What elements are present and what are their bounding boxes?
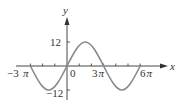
y-tick-label-12: 12 (50, 36, 61, 48)
svg-text:π: π (99, 67, 105, 79)
x-axis-label: x (169, 60, 175, 72)
svg-text:3: 3 (92, 67, 98, 79)
svg-text:6: 6 (140, 67, 146, 79)
x-tick-label-0: 0 (70, 67, 76, 79)
y-tick-label-neg12: −12 (46, 87, 63, 99)
y-axis-arrow-icon (65, 17, 70, 25)
y-axis-label: y (62, 4, 68, 16)
x-tick-label-neg3pi: −3 π (7, 67, 29, 79)
sine-graph: y x 12 −12 −3 π 0 3 π 6 π (0, 0, 183, 108)
svg-text:−3: −3 (7, 67, 19, 79)
svg-text:π: π (147, 67, 153, 79)
x-axis-arrow-icon (160, 64, 168, 69)
x-tick-label-6pi: 6 π (140, 67, 153, 79)
svg-text:π: π (23, 67, 29, 79)
x-tick-label-3pi: 3 π (92, 67, 105, 79)
